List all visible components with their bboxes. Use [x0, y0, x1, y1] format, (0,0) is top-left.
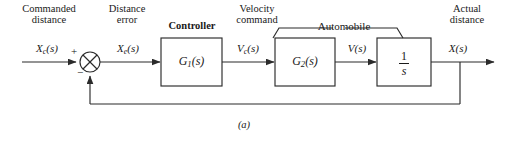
commanded-distance-label: Commanded distance	[9, 3, 89, 26]
velocity-command-signal-label: Vc(s)	[224, 43, 272, 56]
controller-transfer-function-label: G1(s)	[161, 55, 222, 69]
velocity-signal-label: V(s)	[336, 43, 378, 55]
summing-junction-minus-sign: −	[77, 67, 83, 79]
integrator-transfer-function-label: 1 s	[377, 50, 431, 77]
output-signal-label: X(s)	[437, 43, 479, 55]
block-diagram-figure: Commanded distance Distance error Contro…	[0, 0, 507, 141]
automobile-group-label: Automobile	[308, 21, 380, 33]
actual-distance-label: Actual distance	[434, 3, 500, 26]
integrator-fraction: 1 s	[399, 50, 409, 77]
controller-title-label: Controller	[156, 20, 228, 31]
distance-error-label: Distance error	[96, 3, 158, 26]
summing-junction-plus-sign: +	[71, 46, 77, 58]
figure-caption: (a)	[219, 119, 269, 130]
plant-transfer-function-label: G2(s)	[275, 55, 335, 69]
error-signal-label: Xe(s)	[104, 43, 152, 56]
input-signal-label: Xc(s)	[23, 43, 71, 56]
velocity-command-label: Velocity command	[224, 3, 290, 26]
